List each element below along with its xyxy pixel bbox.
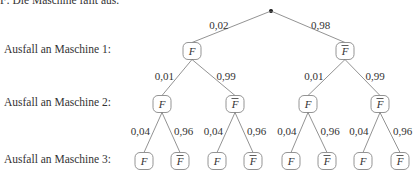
node-fail: F xyxy=(354,153,372,170)
node-fail: F xyxy=(282,153,300,170)
svg-text:F: F xyxy=(188,45,196,57)
branch-probability: 0,96 xyxy=(174,125,194,137)
branch-probability: 0,01 xyxy=(155,70,174,82)
node-fail: F xyxy=(183,43,201,60)
branch-probability: 0,96 xyxy=(321,125,341,137)
branch-probability: 0,96 xyxy=(247,125,267,137)
node-not-fail: F xyxy=(318,153,336,170)
svg-text:F: F xyxy=(213,155,221,167)
branch-probability: 0,99 xyxy=(217,70,237,82)
node-fail: F xyxy=(153,96,171,113)
node-not-fail: F xyxy=(226,96,244,113)
node-not-fail: F xyxy=(171,153,189,170)
svg-text:F: F xyxy=(287,155,295,167)
node-not-fail: F xyxy=(244,153,262,170)
svg-text:F: F xyxy=(140,155,148,167)
svg-text:F: F xyxy=(231,98,239,110)
branch-probability: 0,04 xyxy=(204,125,224,137)
branch-line xyxy=(271,11,345,43)
svg-text:F: F xyxy=(396,155,404,167)
branch-probability: 0,99 xyxy=(366,70,386,82)
branch-probability: 0,96 xyxy=(393,125,413,137)
node-fail: F xyxy=(208,153,226,170)
node-not-fail: F xyxy=(371,96,389,113)
svg-text:F: F xyxy=(323,155,331,167)
branch-probability: 0,04 xyxy=(131,125,151,137)
node-fail: F xyxy=(135,153,153,170)
branch-probability: 0,01 xyxy=(304,70,323,82)
branch-line xyxy=(192,11,271,43)
svg-text:F: F xyxy=(304,98,312,110)
node-not-fail: F xyxy=(336,43,354,60)
svg-text:F: F xyxy=(249,155,257,167)
svg-text:F: F xyxy=(158,98,166,110)
branch-probability: 0,04 xyxy=(349,125,369,137)
svg-text:F: F xyxy=(341,45,349,57)
svg-text:F: F xyxy=(176,155,184,167)
probability-tree: 0,020,98FF0,010,990,010,99FFFF0,040,960,… xyxy=(0,0,419,182)
svg-text:F: F xyxy=(359,155,367,167)
branch-probability: 0,02 xyxy=(209,19,228,31)
branch-probability: 0,04 xyxy=(277,125,297,137)
svg-text:F: F xyxy=(376,98,384,110)
node-fail: F xyxy=(299,96,317,113)
node-not-fail: F xyxy=(391,153,409,170)
branch-probability: 0,98 xyxy=(311,19,331,31)
